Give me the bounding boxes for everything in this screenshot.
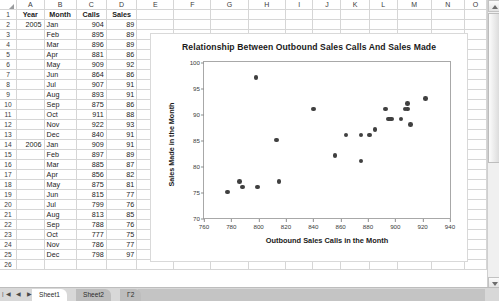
cell-m2[interactable] [397,20,431,30]
cell-d1[interactable]: Sales [106,10,137,20]
cell-c22[interactable]: 788 [76,220,106,230]
cell-b26[interactable] [44,260,76,270]
scatter-point[interactable] [405,101,410,106]
cell-k1[interactable] [341,10,369,20]
cell-h1[interactable] [248,10,285,20]
cell-c6[interactable]: 909 [76,60,106,70]
cell-d26[interactable] [106,260,137,270]
scatter-point[interactable] [237,179,242,184]
cell-a19[interactable] [17,190,45,200]
cell-d14[interactable]: 91 [106,140,137,150]
cell-c13[interactable]: 840 [76,130,106,140]
cell-c12[interactable]: 922 [76,120,106,130]
cell-c9[interactable]: 893 [76,90,106,100]
column-header-c[interactable]: C [76,0,106,10]
cell-b12[interactable]: Nov [44,120,76,130]
cell-a14[interactable]: 2006 [17,140,45,150]
cell-c24[interactable]: 786 [76,240,106,250]
row-header-1[interactable]: 1 [0,10,17,20]
cell-a23[interactable] [17,230,45,240]
column-header-g[interactable]: G [211,0,248,10]
cell-a4[interactable] [17,40,45,50]
scatter-point[interactable] [367,133,372,138]
row-header-20[interactable]: 20 [0,200,17,210]
column-header-n[interactable]: N [431,0,465,10]
sheet-tab-third[interactable]: Γ2 [120,289,141,301]
cell-d3[interactable]: 89 [106,30,137,40]
cell-d15[interactable]: 89 [106,150,137,160]
row-header-11[interactable]: 11 [0,110,17,120]
cell-d7[interactable]: 86 [106,70,137,80]
scatter-point[interactable] [311,107,316,112]
row-header-15[interactable]: 15 [0,150,17,160]
cell-i2[interactable] [285,20,313,30]
cell-c18[interactable]: 875 [76,180,106,190]
column-header-m[interactable]: M [397,0,431,10]
cell-c1[interactable]: Calls [76,10,106,20]
cell-b19[interactable]: Jun [44,190,76,200]
cell-b8[interactable]: Jul [44,80,76,90]
cell-c3[interactable]: 895 [76,30,106,40]
row-header-16[interactable]: 16 [0,160,17,170]
scatter-chart[interactable]: Relationship Between Outbound Sales Call… [150,33,468,262]
cell-d8[interactable]: 91 [106,80,137,90]
column-header-o[interactable]: O [465,0,487,10]
cell-a11[interactable] [17,110,45,120]
cell-b22[interactable]: Sep [44,220,76,230]
cell-a13[interactable] [17,130,45,140]
cell-n2[interactable] [431,20,465,30]
cell-d2[interactable]: 89 [106,20,137,30]
cell-b2[interactable]: Jan [44,20,76,30]
cell-f2[interactable] [174,20,211,30]
cell-a22[interactable] [17,220,45,230]
row-header-18[interactable]: 18 [0,180,17,190]
cell-a21[interactable] [17,210,45,220]
cell-c14[interactable]: 909 [76,140,106,150]
scrollbar-thumb[interactable] [488,13,499,163]
cell-g2[interactable] [211,20,248,30]
cell-a18[interactable] [17,180,45,190]
cell-a10[interactable] [17,100,45,110]
scatter-point[interactable] [277,179,282,184]
cell-a5[interactable] [17,50,45,60]
cell-c19[interactable]: 815 [76,190,106,200]
column-header-d[interactable]: D [106,0,137,10]
cell-d17[interactable]: 82 [106,170,137,180]
cell-d11[interactable]: 88 [106,110,137,120]
row-header-26[interactable]: 26 [0,260,17,270]
cell-e2[interactable] [137,20,174,30]
cell-d6[interactable]: 92 [106,60,137,70]
cell-d4[interactable]: 89 [106,40,137,50]
scatter-point[interactable] [359,133,364,138]
cell-a3[interactable] [17,30,45,40]
cell-b7[interactable]: Jun [44,70,76,80]
row-header-13[interactable]: 13 [0,130,17,140]
cell-b5[interactable]: Apr [44,50,76,60]
cell-b3[interactable]: Feb [44,30,76,40]
row-header-22[interactable]: 22 [0,220,17,230]
cell-e1[interactable] [137,10,174,20]
cell-d20[interactable]: 76 [106,200,137,210]
cell-d21[interactable]: 85 [106,210,137,220]
row-header-8[interactable]: 8 [0,80,17,90]
cell-d12[interactable]: 93 [106,120,137,130]
cell-d10[interactable]: 86 [106,100,137,110]
cell-b24[interactable]: Nov [44,240,76,250]
cell-b20[interactable]: Jul [44,200,76,210]
row-header-24[interactable]: 24 [0,240,17,250]
cell-h2[interactable] [248,20,285,30]
column-header-a[interactable]: A [17,0,45,10]
row-header-5[interactable]: 5 [0,50,17,60]
cell-c23[interactable]: 777 [76,230,106,240]
cell-b14[interactable]: Jan [44,140,76,150]
cell-c10[interactable]: 875 [76,100,106,110]
cell-a26[interactable] [17,260,45,270]
cell-b16[interactable]: Mar [44,160,76,170]
cell-d5[interactable]: 86 [106,50,137,60]
column-header-h[interactable]: H [248,0,285,10]
cell-a25[interactable] [17,250,45,260]
cell-a17[interactable] [17,170,45,180]
row-header-6[interactable]: 6 [0,60,17,70]
cell-i1[interactable] [285,10,313,20]
cell-b23[interactable]: Oct [44,230,76,240]
